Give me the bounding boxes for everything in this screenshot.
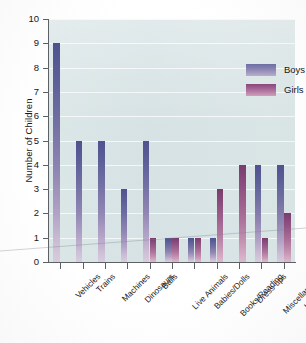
gridline — [49, 43, 295, 44]
legend-item-boys: Boys — [246, 63, 306, 76]
bar-girls — [262, 238, 268, 262]
bar-boys — [277, 165, 283, 262]
bar-girls — [239, 165, 245, 262]
legend-swatch-boys — [246, 64, 276, 76]
y-tick-label: 10 — [13, 14, 39, 24]
x-tick-mark — [217, 263, 218, 269]
y-tick-mark — [43, 213, 49, 214]
x-tick-mark — [60, 263, 61, 269]
y-tick-mark — [43, 165, 49, 166]
x-tick-mark — [261, 263, 262, 269]
bar-girls — [172, 238, 178, 262]
x-tick-mark — [194, 263, 195, 269]
x-tick-mark — [172, 263, 173, 269]
y-tick-label: 0 — [13, 257, 39, 267]
y-tick-label: 5 — [13, 136, 39, 146]
x-tick-mark — [150, 263, 151, 269]
y-tick-mark — [43, 92, 49, 93]
bar-girls — [284, 213, 290, 262]
y-tick-mark — [43, 141, 49, 142]
bar-girls — [150, 238, 156, 262]
y-tick-mark — [43, 189, 49, 190]
legend-label-girls: Girls — [284, 85, 304, 95]
bar-boys — [121, 189, 127, 262]
legend-item-girls: Girls — [246, 83, 306, 96]
bar-boys — [76, 141, 82, 263]
y-tick-label: 9 — [13, 38, 39, 48]
gridline — [49, 141, 295, 142]
y-tick-mark — [43, 116, 49, 117]
bar-girls — [217, 189, 223, 262]
y-tick-label: 3 — [13, 184, 39, 194]
y-tick-label: 1 — [13, 233, 39, 243]
y-tick-label: 2 — [13, 208, 39, 218]
bar-chart-figure: Number of Children Boys Girls 0123456789… — [0, 0, 306, 343]
y-tick-mark — [43, 68, 49, 69]
bar-boys — [255, 165, 261, 262]
x-tick-mark — [239, 263, 240, 269]
y-tick-mark — [43, 19, 49, 20]
y-tick-label: 7 — [13, 87, 39, 97]
x-tick-mark — [105, 263, 106, 269]
bar-girls — [195, 238, 201, 262]
legend: Boys Girls — [246, 63, 306, 103]
bar-boys — [53, 43, 59, 262]
x-tick-mark — [284, 263, 285, 269]
y-tick-label: 6 — [13, 111, 39, 121]
gridline — [49, 116, 295, 117]
bar-boys — [165, 238, 171, 262]
bar-boys — [98, 141, 104, 263]
gridline — [49, 19, 295, 20]
legend-swatch-girls — [246, 84, 276, 96]
x-tick-mark — [83, 263, 84, 269]
y-tick-label: 4 — [13, 160, 39, 170]
y-tick-label: 8 — [13, 63, 39, 73]
x-tick-mark — [127, 263, 128, 269]
bar-boys — [210, 238, 216, 262]
plot-area: Boys Girls — [49, 19, 295, 262]
y-tick-mark — [43, 238, 49, 239]
bar-boys — [143, 141, 149, 263]
y-tick-mark — [43, 43, 49, 44]
legend-label-boys: Boys — [284, 65, 305, 75]
y-tick-mark — [43, 262, 49, 263]
bar-boys — [188, 238, 194, 262]
